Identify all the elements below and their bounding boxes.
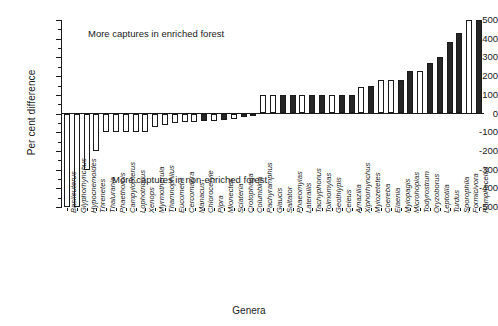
y-tick-minor [58,86,61,87]
x-tick-label: Glyphorhynchus [80,158,88,213]
x-tick-label: Cercomacra [188,172,196,213]
x-tick-mark [450,208,451,211]
bar [152,114,158,127]
y-tick-mark [56,151,61,152]
bar [447,42,453,113]
bar [349,95,355,114]
x-tick-label: Thamnophilus [168,165,176,213]
y-tick-minor [58,198,61,199]
x-tick-mark [175,208,176,211]
bar [103,114,109,133]
x-tick-mark [224,208,225,211]
y-tick-mark [56,76,61,77]
x-tick-label: Tachyphonus [315,168,323,213]
y-tick-mark [56,20,61,21]
x-tick-label: Todyrostrum [423,171,431,213]
bar [309,95,315,114]
x-tick-mark [244,208,245,211]
bar [270,95,276,114]
x-tick-mark [352,208,353,211]
x-tick-mark [293,208,294,211]
x-tick-mark [185,208,186,211]
bar [93,114,99,151]
bar [388,80,394,114]
x-tick-mark [342,208,343,211]
x-tick-label: Campylopterus [129,162,137,213]
x-tick-mark [430,208,431,211]
x-tick-mark [479,208,480,211]
x-tick-label: Basileuterus [70,171,78,213]
x-tick-label: Myiozetetes [374,172,382,213]
bar [437,57,443,113]
bar [211,114,217,122]
x-tick-mark [67,208,68,211]
y-tick-mark [56,207,61,208]
y-tick-minor [58,160,61,161]
y-tick-mark [56,57,61,58]
x-tick-mark [273,208,274,211]
x-tick-label: Lophotriccus [139,170,147,213]
bar [427,63,433,114]
bar [142,114,148,133]
x-tick-mark [165,208,166,211]
x-tick-mark [126,208,127,211]
bar [113,114,119,133]
x-tick-mark [136,208,137,211]
y-tick-mark [56,114,61,115]
bar [241,114,247,118]
x-tick-mark [371,208,372,211]
y-tick-minor [58,142,61,143]
x-tick-mark [87,208,88,211]
y-tick-minor [58,29,61,30]
y-tick-minor [58,104,61,105]
bar [456,33,462,113]
y-tick-minor [58,48,61,49]
bar [368,86,374,114]
bar [407,71,413,114]
bar [201,114,207,122]
bar [358,87,364,113]
y-tick-mark [56,39,61,40]
y-tick-minor [58,179,61,180]
bar [398,80,404,114]
x-tick-mark [322,208,323,211]
x-tick-mark [401,208,402,211]
x-tick-label: Xiphorhynchus [364,163,372,213]
bar [329,95,335,114]
x-tick-label: Tolmomyias [325,173,333,213]
bar [378,80,384,114]
x-tick-mark [195,208,196,211]
x-tick-mark [460,208,461,211]
bar [476,20,482,114]
x-tick-label: Phaeomyias [296,171,304,213]
x-tick-mark [116,208,117,211]
x-tick-label: Phaethornis [119,172,127,213]
chart-figure: Per cent difference 5004003002001000-100… [0,0,498,326]
bar [221,114,227,121]
bar [172,114,178,123]
x-tick-mark [440,208,441,211]
x-tick-label: Pachyramphus [266,162,274,213]
x-tick-mark [214,208,215,211]
x-axis-title: Genera [0,305,498,316]
bar [417,71,423,114]
x-tick-mark [283,208,284,211]
bar [260,95,266,114]
x-tick-label: Myrmotherula [158,167,166,213]
x-tick-mark [332,208,333,211]
bar [319,95,325,114]
bar [280,95,286,114]
y-tick-mark [56,170,61,171]
bar [339,95,345,114]
x-tick-label: Microhopias [413,172,421,213]
bar [123,114,129,133]
bar [231,114,237,120]
bar [290,95,296,114]
bar [162,114,168,125]
x-tick-mark [391,208,392,211]
x-tick-mark [234,208,235,211]
bar [466,20,472,114]
x-tick-mark [381,208,382,211]
x-tick-label: Chloroceryle [207,170,215,213]
bar [299,95,305,114]
